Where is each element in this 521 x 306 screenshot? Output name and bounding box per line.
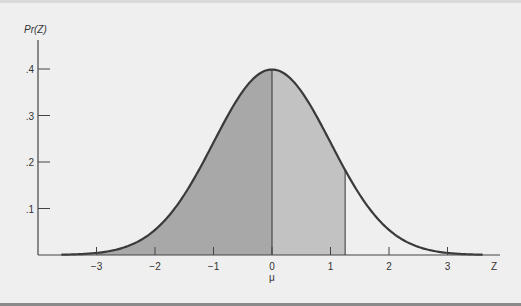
y-axis-title: Pr(Z): [24, 24, 47, 35]
x-tick-label: 2: [386, 261, 392, 272]
normal-distribution-chart: −3−2−10123 .1.2.3.4 Pr(Z) Z μ: [0, 0, 521, 306]
y-tick-label: .3: [26, 111, 35, 122]
shaded-region-light: [272, 69, 345, 255]
x-tick-label: −3: [91, 261, 103, 272]
y-tick-label: .4: [26, 64, 35, 75]
x-tick-label: 3: [445, 261, 451, 272]
shaded-region-dark: [97, 69, 273, 255]
y-tick-label: .1: [26, 204, 35, 215]
shaded-regions: [97, 69, 346, 255]
x-tick-label: 1: [328, 261, 334, 272]
x-tick-label: −1: [208, 261, 220, 272]
x-tick-label: −2: [149, 261, 161, 272]
x-axis-title: Z: [491, 261, 497, 272]
y-tick-label: .2: [26, 157, 35, 168]
mu-label: μ: [269, 272, 275, 283]
x-tick-label: 0: [269, 261, 275, 272]
